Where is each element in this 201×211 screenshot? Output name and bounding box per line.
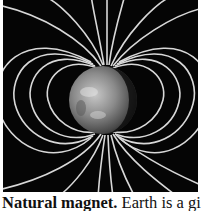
caption-title: Natural magnet. — [2, 193, 117, 211]
field-lines-illustration — [3, 0, 198, 192]
earth-magnetic-field-image — [3, 0, 198, 192]
earth-globe — [69, 66, 137, 134]
figure-caption: Natural magnet. Earth is a giant — [2, 193, 201, 211]
caption-text: Earth is a giant — [117, 193, 201, 211]
